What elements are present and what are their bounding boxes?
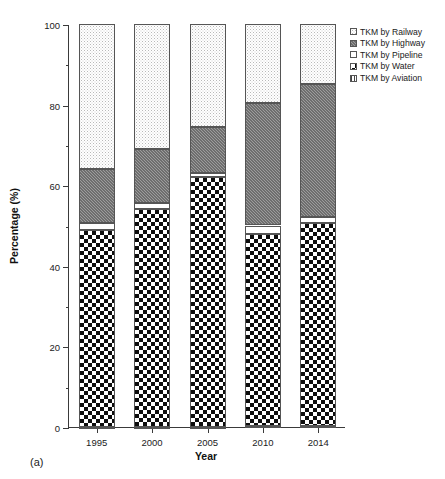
bar-segment-2010-tkm-by-aviation[interactable]: [245, 426, 281, 428]
bar-segment-2005-tkm-by-railway[interactable]: [190, 24, 226, 127]
legend-label: TKM by Highway: [360, 39, 425, 48]
legend-swatch-icon-1: [350, 40, 357, 47]
bar-segment-2014-tkm-by-aviation[interactable]: [300, 426, 336, 428]
y-tick-label-40: 40: [49, 261, 60, 272]
legend-swatch-icon-3: [350, 63, 357, 70]
legend-item-tkm-by-aviation[interactable]: TKM by Aviation: [350, 72, 445, 84]
legend-label: TKM by Railway: [360, 28, 422, 37]
figure-caption: (a): [30, 456, 43, 468]
legend: TKM by RailwayTKM by HighwayTKM by Pipel…: [350, 26, 445, 84]
bar-segment-1995-tkm-by-pipeline[interactable]: [79, 223, 115, 229]
y-tick-minor-70: [66, 146, 70, 147]
legend-label: TKM by Aviation: [360, 74, 422, 83]
y-tick-label-80: 80: [49, 100, 60, 111]
y-tick-100: [63, 25, 69, 26]
legend-label: TKM by Pipeline: [360, 51, 423, 60]
x-tick-label-2014: 2014: [308, 437, 329, 448]
legend-swatch-icon-2: [350, 51, 357, 58]
bar-segment-2000-tkm-by-pipeline[interactable]: [134, 203, 170, 209]
y-tick-label-0: 0: [55, 423, 60, 434]
bar-2000[interactable]: [134, 24, 170, 427]
bar-segment-2014-tkm-by-highway[interactable]: [300, 84, 336, 217]
legend-item-tkm-by-railway[interactable]: TKM by Railway: [350, 26, 445, 38]
bar-segment-2014-tkm-by-water[interactable]: [300, 223, 336, 426]
figure-panel-a: Percentage (%) 020406080100 199520002005…: [0, 0, 445, 479]
y-tick-minor-50: [66, 227, 70, 228]
bar-segment-2000-tkm-by-railway[interactable]: [134, 24, 170, 149]
x-tick-label-1995: 1995: [86, 437, 107, 448]
bar-segment-2010-tkm-by-highway[interactable]: [245, 103, 281, 226]
bar-segment-2010-tkm-by-railway[interactable]: [245, 24, 281, 103]
legend-label: TKM by Water: [360, 62, 415, 71]
bar-segment-2014-tkm-by-pipeline[interactable]: [300, 217, 336, 223]
bar-2005[interactable]: [190, 24, 226, 427]
bar-segment-2000-tkm-by-highway[interactable]: [134, 149, 170, 203]
bar-segment-1995-tkm-by-highway[interactable]: [79, 169, 115, 223]
bar-2014[interactable]: [300, 24, 336, 427]
bar-segment-1995-tkm-by-railway[interactable]: [79, 24, 115, 169]
bar-segment-2000-tkm-by-aviation[interactable]: [134, 427, 170, 429]
y-tick-80: [63, 106, 69, 107]
bar-2010[interactable]: [245, 24, 281, 427]
bar-segment-2000-tkm-by-water[interactable]: [134, 209, 170, 426]
x-tick-label-2000: 2000: [142, 437, 163, 448]
bar-segment-1995-tkm-by-aviation[interactable]: [79, 427, 115, 429]
bar-segment-2010-tkm-by-water[interactable]: [245, 234, 281, 427]
legend-swatch-icon-0: [350, 28, 357, 35]
y-tick-label-60: 60: [49, 181, 60, 192]
bar-segment-2010-tkm-by-pipeline[interactable]: [245, 226, 281, 234]
y-tick-0: [63, 428, 69, 429]
y-tick-label-100: 100: [44, 20, 60, 31]
y-tick-40: [63, 267, 69, 268]
legend-item-tkm-by-highway[interactable]: TKM by Highway: [350, 38, 445, 50]
bar-segment-1995-tkm-by-water[interactable]: [79, 230, 115, 427]
x-axis-title: Year: [195, 450, 217, 462]
x-tick-label-2010: 2010: [252, 437, 273, 448]
legend-swatch-icon-4: [350, 75, 357, 82]
plot-area: 020406080100 19952000200520102014: [68, 25, 345, 428]
y-tick-60: [63, 186, 69, 187]
y-tick-label-20: 20: [49, 342, 60, 353]
y-tick-20: [63, 347, 69, 348]
bar-1995[interactable]: [79, 24, 115, 427]
y-axis-title: Percentage (%): [8, 188, 20, 264]
x-tick-label-2005: 2005: [197, 437, 218, 448]
legend-item-tkm-by-water[interactable]: TKM by Water: [350, 61, 445, 73]
bar-segment-2005-tkm-by-pipeline[interactable]: [190, 173, 226, 177]
y-tick-minor-30: [66, 307, 70, 308]
bar-segment-2005-tkm-by-highway[interactable]: [190, 127, 226, 173]
bar-segment-2005-tkm-by-aviation[interactable]: [190, 427, 226, 429]
legend-item-tkm-by-pipeline[interactable]: TKM by Pipeline: [350, 49, 445, 61]
bar-segment-2014-tkm-by-railway[interactable]: [300, 24, 336, 84]
y-tick-minor-10: [66, 388, 70, 389]
bar-segment-2005-tkm-by-water[interactable]: [190, 177, 226, 426]
y-tick-minor-90: [66, 65, 70, 66]
